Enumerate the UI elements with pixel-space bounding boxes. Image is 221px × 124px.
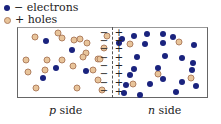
n-side-label: n side <box>148 104 181 117</box>
electron-dot-icon <box>173 89 179 95</box>
hole-dot-icon <box>59 35 66 42</box>
electron-dot-icon <box>179 55 185 61</box>
hole-dot-icon <box>23 57 30 64</box>
hole-dot-icon <box>42 67 49 74</box>
electron-dot-icon <box>131 66 137 72</box>
electron-dot-icon <box>160 40 166 46</box>
hole-dot-icon <box>32 34 39 41</box>
electron-dot-icon <box>4 5 10 11</box>
hole-dot-icon <box>84 40 91 47</box>
electron-dot-icon <box>160 76 166 82</box>
legend: − electrons + holes <box>4 2 78 26</box>
electron-dot-icon <box>123 82 129 88</box>
hole-dot-icon <box>176 39 183 46</box>
p-side-label: p side <box>49 104 82 117</box>
electron-dot-icon <box>155 65 161 71</box>
hole-dot-icon <box>70 63 77 70</box>
electron-dot-icon <box>134 54 140 60</box>
p-side-text: side <box>56 104 82 117</box>
electron-dot-icon <box>162 53 168 59</box>
electron-dot-icon <box>191 42 197 48</box>
hole-dot-icon <box>127 41 134 48</box>
electron-dot-icon <box>83 68 89 74</box>
hole-dot-icon <box>130 81 137 88</box>
electron-dot-icon <box>170 34 176 40</box>
electron-dot-icon <box>53 65 59 71</box>
electron-dot-icon <box>142 41 148 47</box>
electron-dot-icon <box>189 67 195 73</box>
p-side-var: p <box>49 104 56 117</box>
electron-dot-icon <box>193 83 199 89</box>
electron-dot-icon <box>69 47 75 53</box>
electron-dot-icon <box>190 60 196 66</box>
hole-dot-icon <box>74 85 81 92</box>
electron-dot-icon <box>144 31 150 37</box>
hole-dot-icon <box>77 36 84 43</box>
hole-dot-icon <box>59 57 66 64</box>
n-side-text: side <box>155 104 181 117</box>
hole-dot-icon <box>33 85 40 92</box>
junction-boundary-line <box>112 27 113 98</box>
hole-dot-icon <box>4 17 11 24</box>
electron-dot-icon <box>40 75 46 81</box>
hole-dot-icon <box>188 75 195 82</box>
electron-dot-icon <box>131 33 137 39</box>
electron-dot-icon <box>179 79 185 85</box>
legend-holes: + holes <box>4 14 78 26</box>
electron-dot-icon <box>160 31 166 37</box>
plus-charge-icon: + <box>115 87 123 97</box>
electron-dot-icon <box>127 72 133 78</box>
hole-dot-icon <box>90 67 97 74</box>
hole-dot-icon <box>44 57 51 64</box>
minus-charge-icon: − <box>100 86 108 96</box>
electron-dot-icon <box>137 92 143 98</box>
hole-dot-icon <box>25 69 32 76</box>
electron-dot-icon <box>43 38 49 44</box>
legend-holes-label: + holes <box>15 14 57 26</box>
hole-dot-icon <box>80 54 87 61</box>
electron-dot-icon <box>147 81 153 87</box>
